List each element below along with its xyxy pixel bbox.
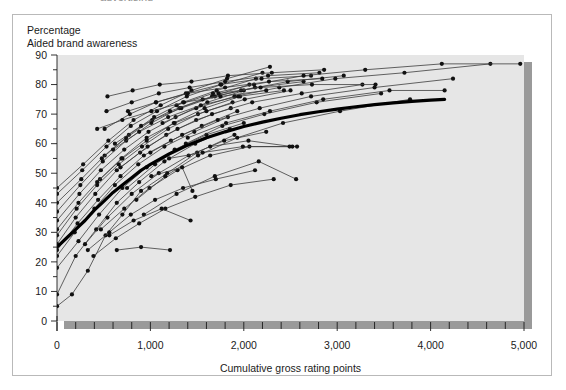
y-axis: 0102030405060708090: [35, 49, 57, 327]
chart-svg: 0102030405060708090 01,0002,0003,0004,00…: [0, 0, 566, 390]
y-tick-label: 40: [35, 197, 47, 209]
plot-shadow-right: [524, 62, 532, 328]
x-tick-label: 2,000: [231, 339, 257, 351]
figure-container: advertising Percentage Aided brand aware…: [0, 0, 566, 390]
x-axis-title: Cumulative gross rating points: [220, 362, 361, 374]
x-tick-label: 5,000: [511, 339, 537, 351]
x-tick-label: 0: [54, 339, 60, 351]
y-tick-label: 20: [35, 256, 47, 268]
x-tick-label: 1,000: [137, 339, 163, 351]
y-tick-label: 70: [35, 108, 47, 120]
y-tick-label: 90: [35, 49, 47, 61]
y-tick-label: 80: [35, 78, 47, 90]
x-tick-label: 3,000: [324, 339, 350, 351]
y-tick-label: 60: [35, 137, 47, 149]
y-tick-label: 30: [35, 226, 47, 238]
plot-shadow-bottom: [64, 321, 532, 329]
y-tick-label: 0: [41, 315, 47, 327]
y-tick-label: 50: [35, 167, 47, 179]
x-tick-label: 4,000: [417, 339, 443, 351]
y-tick-label: 10: [35, 285, 47, 297]
